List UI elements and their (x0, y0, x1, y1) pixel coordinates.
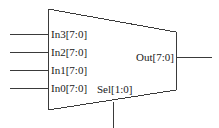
mux-schematic-canvas (0, 0, 219, 128)
port-label-in1: In1[7:0] (51, 65, 87, 76)
mux-diagram: In3[7:0] In2[7:0] In1[7:0] In0[7:0] Sel[… (0, 0, 219, 128)
port-label-out: Out[7:0] (136, 52, 174, 63)
port-label-sel: Sel[1:0] (97, 84, 132, 95)
port-label-in2: In2[7:0] (51, 47, 87, 58)
port-label-in3: In3[7:0] (51, 29, 87, 40)
port-label-in0: In0[7:0] (51, 83, 87, 94)
